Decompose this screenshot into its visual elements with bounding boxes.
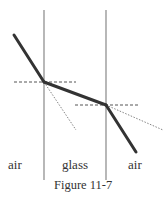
refracted-ray-in-glass [44,82,106,105]
region-label-glass: glass [62,157,88,172]
region-label-air-right: air [128,157,142,172]
refraction-diagram: air glass air Figure 11-7 [0,0,168,202]
incident-ray [14,35,44,82]
figure-caption: Figure 11-7 [54,178,112,192]
emergent-ray [106,105,136,152]
region-label-air-left: air [8,157,22,172]
